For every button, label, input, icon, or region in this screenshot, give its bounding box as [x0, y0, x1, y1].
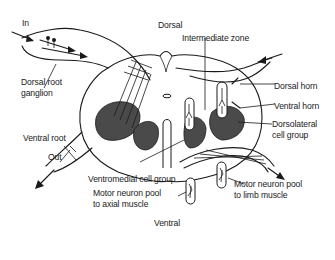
central-canal [163, 94, 171, 98]
label-ventral-horn: Ventral horn [274, 101, 319, 111]
label-out: Out [48, 152, 62, 162]
label-dorsal: Dorsal [158, 20, 182, 30]
label-in: In [22, 18, 29, 28]
label-ventral: Ventral [154, 218, 180, 228]
ventral-root-right [180, 148, 285, 180]
label-dorsolateral-2: cell group [272, 130, 308, 140]
input-arrows [12, 32, 88, 59]
dorsal-root-right [176, 54, 282, 82]
ventral-median-fissure [163, 120, 171, 169]
label-dorsal-root-ganglion-2: ganglion [21, 88, 53, 98]
label-axial-pool-2: to axial muscle [93, 199, 148, 209]
label-dorsal-horn: Dorsal horn [274, 81, 317, 91]
label-ventral-root: Ventral root [23, 133, 66, 143]
motor-neuron-pools [186, 162, 226, 204]
label-limb-pool-1: Motor neuron pool [234, 179, 302, 189]
label-ventromedial: Ventromedial cell group [88, 174, 176, 184]
grey-matter-left [96, 102, 159, 150]
label-limb-pool-2: to limb muscle [234, 190, 288, 200]
label-dorsal-root-ganglion-1: Dorsal root [21, 77, 62, 87]
label-axial-pool-1: Motor neuron pool [93, 188, 161, 198]
label-intermediate-zone: Intermediate zone [182, 33, 249, 43]
label-dorsolateral-1: Dorsolateral [272, 119, 317, 129]
